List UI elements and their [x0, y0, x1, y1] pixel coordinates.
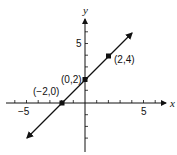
tick-label-y5: 5: [76, 38, 82, 49]
line-y-equals-x-plus-2: [62, 33, 132, 103]
line-y-equals-x-plus-2-lower: [27, 103, 62, 138]
point-0-2: [83, 77, 88, 82]
tick-label-neg5: −5: [18, 106, 30, 117]
y-axis-label: y: [82, 4, 88, 16]
coordinate-plot: y x −5 5 5 (−2,0) (0,2) (2,4): [0, 0, 177, 155]
point-neg2-0: [60, 101, 65, 106]
x-axis-label: x: [169, 97, 175, 109]
point-label-2-4: (2,4): [114, 54, 135, 65]
point-label-0-2: (0,2): [61, 74, 82, 85]
point-2-4: [106, 54, 111, 59]
point-label-neg2-0: (−2,0): [33, 86, 59, 97]
tick-label-x5: 5: [141, 106, 147, 117]
